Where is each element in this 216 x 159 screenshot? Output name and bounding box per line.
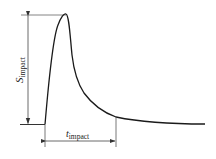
duration-label: timpact xyxy=(66,128,90,141)
pulse-curve xyxy=(45,14,205,125)
amplitude-label: Simpact xyxy=(13,56,27,83)
impact-pulse-diagram: Simpact timpact xyxy=(0,0,216,159)
